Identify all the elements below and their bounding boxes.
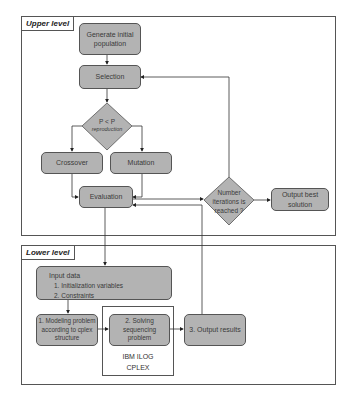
generate-line2: population — [86, 39, 133, 48]
iter-line3: reached ? — [204, 206, 254, 215]
input-data-node: Input data 1. Initialization variables 2… — [36, 266, 172, 300]
reproduction-decision-label: P < P reproduction — [82, 117, 132, 134]
input-item-2: 2. Constraints — [49, 291, 123, 300]
solving-line3: problem — [123, 334, 156, 343]
modeling-problem-node: 1. Modeling problem according to cplex s… — [36, 314, 98, 346]
output-best-solution-node: Output best solution — [271, 188, 329, 211]
modeling-line2: according to cplex — [38, 326, 95, 335]
input-data-title: Input data — [49, 271, 123, 281]
decision-line2: reproduction — [82, 126, 132, 134]
iter-line2: iterations is — [204, 197, 254, 206]
selection-node: Selection — [79, 65, 141, 89]
solving-line1: 2. Solving — [123, 317, 156, 326]
iter-line1: Number — [204, 188, 254, 197]
output-best-line2: solution — [282, 200, 318, 209]
input-item-1: 1. Initialization variables — [49, 281, 123, 290]
evaluation-node: Evaluation — [79, 186, 133, 208]
mutation-node: Mutation — [110, 152, 172, 174]
decision-line1: P < P — [82, 117, 132, 126]
generate-line1: Generate initial — [86, 30, 133, 39]
output-results-node: 3. Output results — [184, 314, 246, 346]
crossover-node: Crossover — [41, 152, 103, 174]
generate-initial-population-node: Generate initial population — [79, 23, 141, 55]
output-best-line1: Output best — [282, 190, 318, 199]
modeling-line1: 1. Modeling problem — [38, 317, 95, 326]
iterations-decision-label: Number iterations is reached ? — [204, 188, 254, 215]
solving-sequencing-node: 2. Solving sequencing problem — [109, 314, 170, 346]
solving-line2: sequencing — [123, 326, 156, 335]
modeling-line3: structure — [38, 334, 95, 343]
